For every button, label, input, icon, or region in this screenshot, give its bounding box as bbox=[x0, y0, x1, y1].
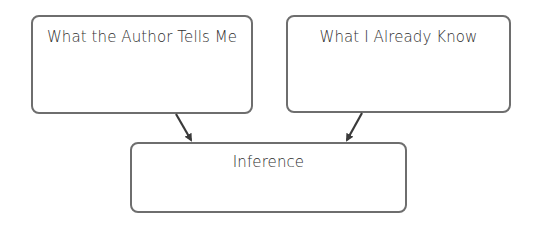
connector-arrows bbox=[0, 0, 534, 227]
arrow-know-to-inference bbox=[347, 113, 362, 140]
arrow-author-to-inference bbox=[176, 114, 191, 140]
